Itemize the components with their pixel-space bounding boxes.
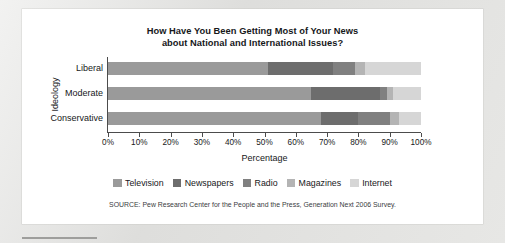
legend-label: Radio: [255, 178, 278, 188]
bar-segment-radio: [358, 112, 389, 125]
bar-segment-magazines: [390, 112, 399, 125]
legend-label: Magazines: [299, 178, 342, 188]
x-tick-label: 0%: [102, 138, 114, 147]
x-tick-label: 70%: [319, 138, 335, 147]
legend-label: Internet: [362, 178, 392, 188]
legend-item-internet: Internet: [350, 178, 392, 188]
x-tick-mark: [108, 133, 109, 137]
plot-area: Liberal Moderate Conservative 0%10%20%30…: [108, 57, 421, 132]
x-tick-label: 40%: [225, 138, 241, 147]
bar-segment-internet: [393, 87, 421, 100]
x-tick-label: 60%: [288, 138, 304, 147]
legend-label: Television: [125, 178, 164, 188]
x-tick-label: 90%: [381, 138, 397, 147]
x-tick-label: 100%: [411, 138, 432, 147]
table-row: [108, 62, 421, 75]
legend-swatch-icon: [350, 179, 359, 188]
chart-card: How Have You Been Getting Most of Your N…: [22, 9, 483, 224]
bar-segment-internet: [365, 62, 421, 75]
x-tick-mark: [358, 133, 359, 137]
x-tick-mark: [171, 133, 172, 137]
source-note: SOURCE: Pew Research Center for the Peop…: [22, 201, 483, 208]
bar-segment-newspapers: [321, 112, 359, 125]
legend-item-television: Television: [113, 178, 164, 188]
chart-legend: TelevisionNewspapersRadioMagazinesIntern…: [22, 178, 483, 188]
legend-item-newspapers: Newspapers: [173, 178, 234, 188]
bar-segment-television: [108, 87, 311, 100]
x-tick-label: 20%: [162, 138, 178, 147]
x-tick-mark: [265, 133, 266, 137]
legend-item-radio: Radio: [243, 178, 278, 188]
x-tick-label: 80%: [350, 138, 366, 147]
y-tick-label-moderate: Moderate: [0, 88, 103, 98]
bar-segment-magazines: [355, 62, 364, 75]
table-row: [108, 112, 421, 125]
x-tick-label: 30%: [194, 138, 210, 147]
x-tick-label: 50%: [256, 138, 272, 147]
bar-segment-television: [108, 62, 268, 75]
bar-segment-newspapers: [311, 87, 380, 100]
bar-segment-radio: [333, 62, 355, 75]
bar-segment-television: [108, 112, 321, 125]
x-tick-mark: [296, 133, 297, 137]
bottom-rule: [22, 237, 97, 239]
legend-swatch-icon: [173, 179, 182, 188]
x-tick-mark: [327, 133, 328, 137]
x-tick-mark: [421, 133, 422, 137]
x-tick-mark: [233, 133, 234, 137]
x-tick-label: 10%: [131, 138, 147, 147]
y-tick-label-liberal: Liberal: [0, 63, 103, 73]
legend-swatch-icon: [243, 179, 252, 188]
table-row: [108, 87, 421, 100]
bar-segment-newspapers: [268, 62, 334, 75]
chart-title-line-2: about National and International Issues?: [22, 37, 483, 49]
chart-screenshot: How Have You Been Getting Most of Your N…: [0, 0, 505, 243]
chart-title-line-1: How Have You Been Getting Most of Your N…: [22, 25, 483, 37]
legend-swatch-icon: [287, 179, 296, 188]
legend-label: Newspapers: [185, 178, 234, 188]
x-axis-title: Percentage: [108, 153, 421, 163]
x-tick-mark: [139, 133, 140, 137]
bar-segment-internet: [399, 112, 421, 125]
legend-item-magazines: Magazines: [287, 178, 342, 188]
legend-swatch-icon: [113, 179, 122, 188]
chart-title: How Have You Been Getting Most of Your N…: [22, 25, 483, 49]
x-tick-mark: [390, 133, 391, 137]
x-tick-mark: [202, 133, 203, 137]
y-tick-label-conservative: Conservative: [0, 113, 103, 123]
